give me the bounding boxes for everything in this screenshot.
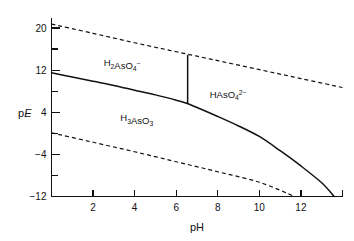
x-axis-tick-label: 2 (90, 202, 96, 213)
pe-ph-diagram-svg: −12−441220 24681012 H2AsO4−HAsO42−H3AsO3… (0, 0, 354, 241)
x-axis-tick-label: 6 (173, 202, 179, 213)
y-axis-tick-label: 12 (35, 65, 47, 76)
x-axis-tick-label: 8 (215, 202, 221, 213)
x-axis-tick-label: 12 (295, 202, 307, 213)
x-axis-tick-label: 4 (132, 202, 138, 213)
y-axis-tick-label: 20 (35, 23, 47, 34)
x-axis-title: pH (190, 221, 204, 233)
x-axis-tick-label: 10 (254, 202, 266, 213)
y-axis-tick-label: 4 (41, 107, 47, 118)
pe-ph-diagram-figure: −12−441220 24681012 H2AsO4−HAsO42−H3AsO3… (0, 0, 354, 241)
y-axis-title: pE (18, 107, 32, 119)
y-axis-tick-label: −12 (30, 191, 47, 202)
y-axis-tick-label: −4 (35, 149, 47, 160)
